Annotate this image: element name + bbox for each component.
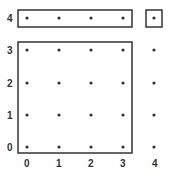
- lattice-point: [121, 113, 124, 116]
- y-label-2: 2: [7, 78, 13, 89]
- lattice-point: [57, 113, 60, 116]
- lattice-point: [25, 16, 28, 19]
- lattice-point: [89, 16, 92, 19]
- y-label-0: 0: [7, 142, 13, 153]
- lattice-point: [89, 48, 92, 51]
- main-square-box: [18, 42, 132, 153]
- x-label-4: 4: [152, 158, 158, 169]
- lattice-point: [121, 48, 124, 51]
- top-row-box: [18, 10, 132, 27]
- lattice-point: [25, 48, 28, 51]
- lattice-point: [89, 81, 92, 84]
- lattice-point: [57, 145, 60, 148]
- lattice-point: [89, 113, 92, 116]
- lattice-point: [57, 16, 60, 19]
- lattice-diagram: 4 3 2 1 0 0 1 2 3 4: [0, 0, 172, 175]
- x-label-2: 2: [88, 158, 94, 169]
- lattice-point: [89, 145, 92, 148]
- lattice-point: [25, 113, 28, 116]
- lattice-point: [152, 16, 155, 19]
- lattice-point: [152, 48, 155, 51]
- lattice-point: [152, 113, 155, 116]
- lattice-points: [25, 16, 155, 148]
- x-label-3: 3: [120, 158, 126, 169]
- lattice-point: [57, 48, 60, 51]
- lattice-point: [121, 16, 124, 19]
- lattice-point: [152, 81, 155, 84]
- x-label-1: 1: [56, 158, 62, 169]
- lattice-point: [25, 81, 28, 84]
- x-label-0: 0: [24, 158, 30, 169]
- y-label-3: 3: [7, 45, 13, 56]
- y-label-4: 4: [7, 13, 13, 24]
- lattice-point: [121, 81, 124, 84]
- lattice-point: [152, 145, 155, 148]
- lattice-point: [25, 145, 28, 148]
- lattice-point: [121, 145, 124, 148]
- y-label-1: 1: [7, 110, 13, 121]
- lattice-point: [57, 81, 60, 84]
